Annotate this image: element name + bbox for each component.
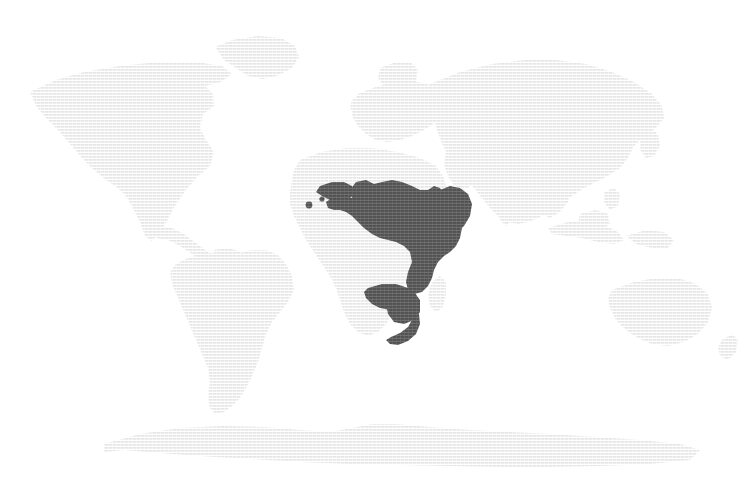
highlight-madagascar-dot: [414, 265, 421, 272]
highlight-west-africa-dot-1: [306, 202, 313, 209]
map-canvas: [0, 0, 752, 490]
highlight-west-africa-dot-2: [319, 196, 324, 201]
world-distribution-map-figure: World distribution map Grey-shaded world…: [0, 0, 752, 490]
